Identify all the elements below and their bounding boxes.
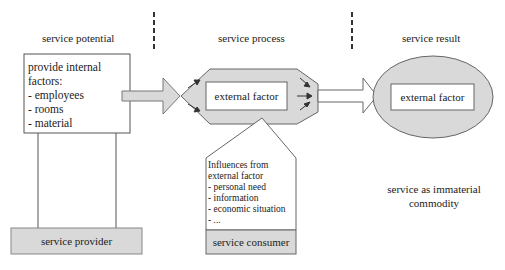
process-external-factor-label: external factor	[206, 90, 287, 103]
service-consumer-label: service consumer	[206, 236, 296, 249]
arrow-process-to-result	[318, 78, 377, 113]
service-provider-label: service provider	[11, 235, 142, 248]
consumer-influences-text: Influences from external factor - person…	[208, 160, 286, 226]
header-service-potential: service potential	[42, 32, 114, 45]
header-service-result: service result	[402, 32, 460, 45]
header-service-process: service process	[218, 32, 285, 45]
result-caption: service as immaterial commodity	[374, 182, 494, 210]
arrow-potential-to-process	[122, 78, 180, 114]
potential-box-text: provide internal factors: - employees - …	[28, 60, 101, 130]
result-external-factor-label: external factor	[391, 91, 474, 104]
